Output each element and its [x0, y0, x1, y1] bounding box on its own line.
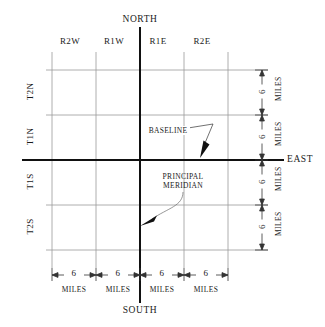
township-label-t2s: T2S: [26, 211, 35, 243]
bottom-dim-value-2: 6: [108, 269, 128, 278]
township-label-t2n: T2N: [26, 76, 35, 108]
right-dim-unit-2: MILES: [275, 116, 283, 152]
township-label-t1s: T1S: [26, 166, 35, 198]
bottom-dim-unit-4: MILES: [188, 286, 224, 294]
baseline-leader: [188, 124, 213, 143]
right-dim-unit-1: MILES: [275, 71, 283, 107]
range-label-r1w: R1W: [100, 37, 128, 46]
bottom-dim-unit-2: MILES: [100, 286, 136, 294]
township-label-t1n: T1N: [26, 121, 35, 153]
range-label-r2e: R2E: [188, 37, 216, 46]
right-dim-value-2: 6: [258, 130, 267, 144]
right-dim-value-4: 6: [258, 220, 267, 234]
range-label-r1e: R1E: [144, 37, 172, 46]
bottom-dim-value-3: 6: [152, 269, 172, 278]
right-dim-value-3: 6: [258, 175, 267, 189]
bottom-dim-value-4: 6: [196, 269, 216, 278]
label-east: EAST: [287, 155, 313, 165]
right-dim-unit-4: MILES: [275, 206, 283, 242]
baseline-arrowhead: [200, 141, 210, 159]
range-label-r2w: R2W: [56, 37, 84, 46]
label-south: SOUTH: [0, 306, 280, 316]
annotation-principal-meridian: PRINCIPAL MERIDIAN: [155, 172, 211, 191]
annotation-principal-meridian-line1: PRINCIPAL: [155, 172, 211, 181]
plss-diagram: NORTH SOUTH EAST R2W R1W R1E R2E T2N T1N…: [0, 0, 325, 327]
right-dim-value-1: 6: [258, 85, 267, 99]
bottom-dim-unit-1: MILES: [56, 286, 92, 294]
annotation-principal-meridian-line2: MERIDIAN: [155, 181, 211, 190]
annotation-baseline: BASELINE: [146, 126, 190, 135]
bottom-dim-unit-3: MILES: [144, 286, 180, 294]
right-dim-unit-3: MILES: [275, 161, 283, 197]
label-north: NORTH: [0, 15, 280, 25]
principal-meridian-leader: [152, 192, 183, 219]
bottom-dim-value-1: 6: [64, 269, 84, 278]
